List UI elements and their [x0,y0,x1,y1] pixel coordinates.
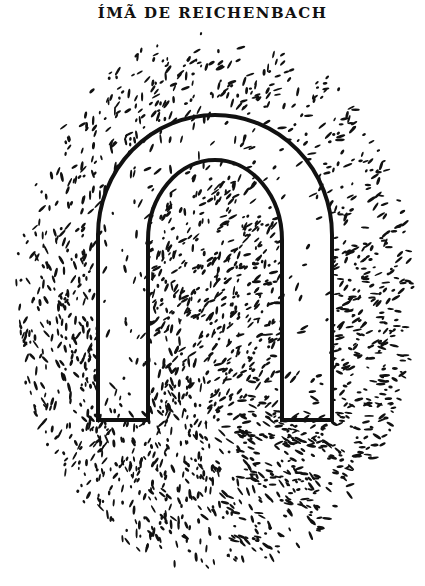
iron-filing [148,496,152,501]
iron-filing [204,486,207,493]
iron-filing [63,462,67,467]
iron-filing [328,482,333,486]
iron-filing [237,312,241,317]
iron-filing [152,451,157,459]
iron-filing [339,419,346,422]
iron-filing [221,516,225,520]
iron-filing [65,240,71,249]
iron-filing [43,295,50,304]
iron-filing [384,389,388,391]
iron-filing [236,388,243,396]
iron-filing [238,244,243,249]
iron-filing [244,302,249,307]
iron-filing [396,199,401,202]
iron-filing [19,324,24,330]
iron-filing [334,205,338,213]
iron-filing [134,519,138,525]
iron-filing [241,224,243,228]
iron-filing [356,332,363,337]
iron-filing [59,226,63,230]
iron-filing [335,138,345,141]
iron-filing [326,165,332,169]
iron-filing [302,140,308,146]
iron-filing [66,248,70,253]
iron-filing [108,491,111,496]
iron-filing [73,348,77,354]
iron-filing [248,228,253,232]
iron-filing [269,270,279,275]
iron-filing [210,281,212,289]
iron-filing [80,484,83,488]
iron-filing [135,546,141,552]
iron-filing [374,396,379,399]
iron-filing [343,284,350,292]
iron-filing [205,564,210,569]
iron-filing [159,405,162,409]
iron-filing [251,412,257,417]
iron-filing [368,258,373,262]
iron-filing [365,329,373,334]
iron-filing [208,529,212,537]
iron-filing [80,207,85,214]
iron-filing [289,456,297,462]
iron-filing [297,478,302,481]
iron-filing [149,444,153,450]
iron-filing [83,262,88,268]
iron-filing [382,364,386,368]
iron-filing [352,328,362,332]
iron-filing [225,438,234,445]
iron-filing [274,93,281,96]
iron-filing [280,459,284,463]
iron-filing [169,519,172,529]
iron-filing [255,246,257,250]
iron-filing [351,158,356,162]
iron-filing [211,343,219,352]
iron-filing [226,361,231,365]
iron-filing [324,131,333,140]
iron-filing [278,479,285,488]
iron-filing [369,168,374,171]
iron-filing [34,334,37,341]
iron-filing [198,433,204,440]
iron-filing [230,98,235,108]
iron-filing [390,230,397,233]
iron-filing [199,211,205,215]
iron-filing [246,214,250,218]
iron-filing [156,44,159,48]
iron-filing [178,392,180,401]
iron-filing [216,417,221,422]
iron-filing [365,398,371,402]
iron-filing [225,388,230,396]
iron-filing [160,320,167,329]
iron-filing [114,461,119,467]
iron-filing [335,411,344,414]
iron-filing [221,240,225,246]
iron-filing [208,60,216,66]
iron-filing [88,288,92,293]
iron-filing [337,87,341,92]
iron-filing [260,310,264,314]
iron-filing [385,397,393,400]
iron-filing [273,87,282,92]
iron-filing [180,504,183,508]
iron-filing [136,70,143,75]
iron-filing [59,172,64,182]
iron-filing [138,490,142,496]
iron-filing [363,435,369,440]
iron-filing [81,315,87,322]
iron-filing [362,420,370,424]
iron-filing [64,152,67,157]
iron-filing [15,279,18,287]
iron-filing [91,292,96,300]
iron-filing [154,362,158,366]
iron-filing [372,266,376,269]
iron-filing [209,321,214,326]
iron-filing [28,330,31,337]
iron-filing [233,525,237,528]
iron-filing [204,63,209,71]
iron-filing [104,425,107,429]
iron-filing [229,548,232,552]
iron-filing [186,227,191,234]
iron-filing [79,386,85,392]
iron-filing [258,369,264,377]
